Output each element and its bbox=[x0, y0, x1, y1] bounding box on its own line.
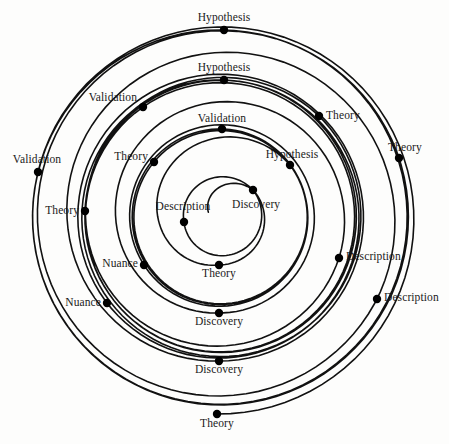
node-label: Discovery bbox=[232, 199, 280, 211]
node-dot[interactable] bbox=[395, 154, 403, 162]
node-dot[interactable] bbox=[81, 207, 89, 215]
node-label: Nuance bbox=[102, 258, 138, 270]
node-label: Nuance bbox=[65, 297, 101, 309]
node-dot[interactable] bbox=[286, 161, 294, 169]
node-label: Theory bbox=[326, 110, 360, 122]
node-label: Description bbox=[156, 201, 211, 213]
node-dot[interactable] bbox=[140, 261, 148, 269]
node-label: Theory bbox=[200, 418, 234, 430]
node-dot[interactable] bbox=[220, 26, 228, 34]
spiral-path bbox=[33, 27, 414, 414]
node-label: Validation bbox=[198, 113, 246, 125]
node-dot[interactable] bbox=[315, 112, 323, 120]
node-label: Hypothesis bbox=[198, 12, 251, 24]
node-dot[interactable] bbox=[103, 299, 111, 307]
node-dot[interactable] bbox=[249, 186, 257, 194]
node-dot[interactable] bbox=[373, 295, 381, 303]
node-label: Validation bbox=[89, 92, 137, 104]
node-label: Description bbox=[346, 251, 401, 263]
node-label: Discovery bbox=[195, 364, 243, 376]
node-label: Description bbox=[384, 292, 439, 304]
node-label: Theory bbox=[45, 205, 79, 217]
node-dot[interactable] bbox=[335, 254, 343, 262]
spiral-diagram-figure: DiscoveryDescriptionTheoryHypothesisVali… bbox=[0, 0, 449, 444]
node-label: Discovery bbox=[195, 316, 243, 328]
node-dot[interactable] bbox=[220, 76, 228, 84]
node-label: Validation bbox=[13, 154, 61, 166]
node-dot[interactable] bbox=[150, 158, 158, 166]
node-label: Theory bbox=[114, 151, 148, 163]
node-dot[interactable] bbox=[34, 168, 42, 176]
node-dot[interactable] bbox=[180, 218, 188, 226]
node-label: Hypothesis bbox=[266, 149, 319, 161]
node-dot[interactable] bbox=[139, 103, 147, 111]
node-label: Hypothesis bbox=[198, 62, 251, 74]
node-label: Theory bbox=[388, 142, 422, 154]
node-dot[interactable] bbox=[218, 125, 226, 133]
node-dot-layer bbox=[34, 26, 403, 418]
node-label: Theory bbox=[202, 268, 236, 280]
